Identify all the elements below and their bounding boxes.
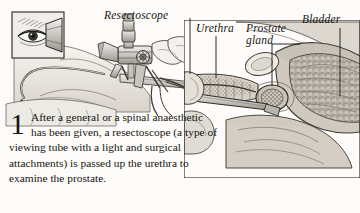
label-bladder: Bladder [302, 13, 340, 25]
label-resectoscope: Resectoscope [104, 9, 168, 21]
caption-text: After a general or a spinal anaesthetic … [9, 110, 219, 186]
label-prostate-gland: Prostate gland [246, 22, 286, 46]
figure-panel: Resectoscope Urethra Prostate gland Blad… [0, 0, 360, 213]
label-urethra: Urethra [196, 22, 234, 34]
eye-at-eyepiece-inset [12, 12, 64, 58]
figure-caption: 1 After a general or a spinal anaestheti… [9, 110, 219, 186]
step-number: 1 [9, 110, 31, 137]
